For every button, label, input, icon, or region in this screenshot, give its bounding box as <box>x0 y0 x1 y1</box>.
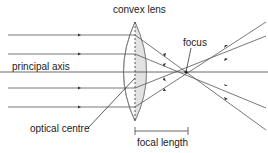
convex-lens <box>124 22 147 121</box>
principal-axis-label: principal axis <box>12 62 70 72</box>
focus-label: focus <box>183 38 207 48</box>
focal-length-bar <box>135 127 188 135</box>
incident-arrow-icons <box>78 34 81 109</box>
focal-length-label: focal length <box>137 138 188 148</box>
optical-centre-label: optical centre <box>30 124 89 134</box>
convex-lens-label: convex lens <box>113 5 166 15</box>
focus-pointer <box>186 48 191 72</box>
